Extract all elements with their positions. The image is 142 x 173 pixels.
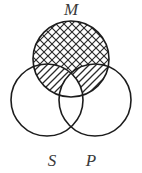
label-m: M [63,0,79,19]
venn-diagram-canvas: M S P [0,0,142,173]
label-s: S [48,151,57,170]
region-m-and-p-shading [0,0,142,173]
venn-diagram-figure: M S P [0,0,142,173]
label-p: P [85,151,96,170]
